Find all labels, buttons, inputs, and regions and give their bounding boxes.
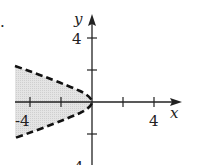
- x-axis-label: x: [170, 104, 179, 122]
- y-tick-label-neg4-partial: 4: [74, 158, 84, 165]
- inequality-graph: y 4 x -4 4 4 .: [0, 0, 199, 165]
- stray-mark: .: [0, 13, 5, 31]
- x-tick-label-neg4: -4: [15, 112, 30, 130]
- x-tick-label-4: 4: [149, 112, 159, 130]
- y-axis-label: y: [73, 10, 83, 28]
- y-tick-label-4: 4: [72, 30, 82, 48]
